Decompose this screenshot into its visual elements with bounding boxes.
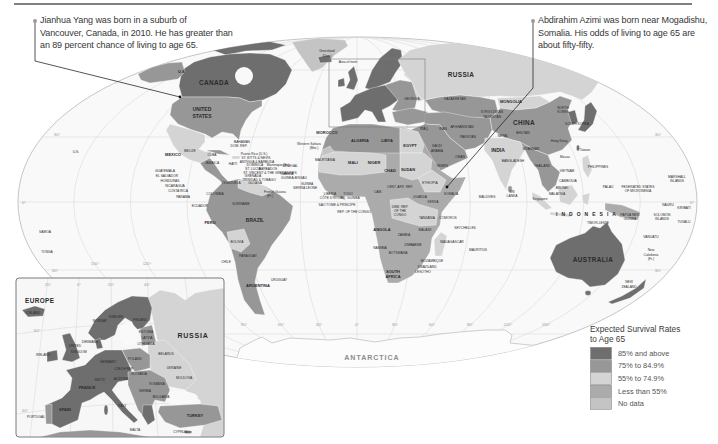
inset-label-poland: POLAND [128,357,142,361]
callout-2-line-1: Abdirahim Azimi was born near Mogadishu, [538,14,707,27]
label-vietnam: VIETNAM [560,169,575,173]
inset-title: EUROPE [25,297,55,304]
inset-label-turkey: TURKEY [187,413,204,418]
svg-text:90°: 90° [241,322,248,327]
inset-label-malta: MALTA [130,428,141,432]
label-namibia: NAMIBIA [373,246,387,250]
inset-label-united-kingdom: UNITED [69,344,82,348]
label-us-hawaii: U.S. [73,150,79,154]
callout-1-line-1: Jianhua Yang was born in a suburb of [40,14,233,27]
inset-label-ireland: IRELAND [36,353,51,357]
label-kiribati: KIRIBATI [677,206,691,210]
label-malawi: MALAWI [419,228,432,232]
label-oman: OMAN [455,155,466,159]
inset-label-italy: ITALY [118,404,127,408]
label-costa-rica: COSTA RICA [168,189,189,193]
inset-label-germany: GERMANY [100,360,117,364]
svg-text:30°: 30° [52,268,59,273]
label-chile: CHILE [221,260,232,264]
label-bhutan: BHUTAN [516,131,530,135]
callout-2-line-2: Somalia. His odds of living to age 65 ar… [538,27,707,40]
label-georgia: GEORGIA [404,97,420,101]
label-saudi-arabia: SAUDI [432,144,442,148]
label-australia: AUSTRALIA [573,256,614,263]
label-papua-new-guinea: GUINEA [624,217,637,221]
inset-portugal [45,404,52,424]
label-paraguay: PARAGUAY [239,254,258,258]
label-afghanistan: AFGHANISTAN [450,125,474,129]
legend-item: 55% to 74.9% [590,372,715,385]
callout-jianhua-yang: Jianhua Yang was born in a suburb of Van… [40,14,233,52]
label-russia: RUSSIA [448,71,475,78]
svg-text:60°: 60° [34,328,41,333]
label-sudan: SUDAN [401,167,415,172]
label-colombia: COLOMBIA [206,192,224,196]
label-iraq: IRAQ [420,127,428,131]
svg-text:30°: 30° [316,322,323,327]
legend-item: No data [590,397,715,410]
label-kyrgyzstan: KYRGYZSTAN [481,110,504,114]
label-samoa: SAMOA [39,230,52,234]
legend-item: 75% to 84.9% [590,360,715,373]
svg-text:0°: 0° [355,322,359,327]
label-el-salvador: EL SALVADOR [156,174,179,178]
label-tonga: TONGA [41,250,53,254]
label-greenland: (Den.) [322,54,331,58]
label-drc: CONGO [394,213,407,217]
label-canada: CANADA [199,79,229,86]
label-solomon-islands: ISLANDS [655,217,670,221]
svg-text:120°: 120° [504,322,513,327]
inset-label-czech-rep: CZECH REP. [114,367,134,371]
inset-label-united-kingdom: KINGDOM [71,350,87,354]
label-belize: BELIZE [184,149,196,153]
svg-text:0°: 0° [77,282,81,287]
inset-label-switzerland: SWITZ. [94,378,105,382]
callout-2-marker-icon [531,19,535,23]
callout-1-line-2: Vancouver, Canada, in 2010. He has great… [40,27,233,40]
europe-inset: 20° 0° 20° 40° 60° 40° EUROPE RUSSIA ICE… [16,278,224,437]
inset-label-bulgaria: BULGARIA [153,395,170,399]
label-marshall-islands: ISLANDS [670,179,685,183]
label-singapore: Singapore [532,197,547,201]
label-vanuatu: VANUATU [643,235,659,239]
label-mozambique: MOZAMBIQUE [421,259,444,263]
label-botswana: BOTSWANA [389,251,409,255]
legend: Expected Survival Rates to Age 65 85% an… [590,324,715,410]
label-algeria: ALGERIA [351,138,369,143]
label-niger: NIGER [368,160,381,165]
label-indonesia: INDONESIA [556,211,620,217]
label-western-sahara: (Mor.) [310,146,319,150]
legend-swatch [590,360,612,373]
label-palau: PALAU [603,185,614,189]
label-new-caledonia: New [648,248,655,252]
label-sao-tome: SAO TOME & PRINCIPE [319,203,357,207]
label-libya: LIBYA [381,138,393,143]
label-haiti: HAITI [229,162,238,166]
label-south-korea: SOUTH KOREA [565,122,590,126]
inset-label-spain: SPAIN [59,407,71,412]
label-mongolia: MONGOLIA [500,99,522,104]
label-mauritius: MAURITIUS [469,248,488,252]
inset-label-belarus: BELARUS [158,352,174,356]
legend-items: 85% and above 75% to 84.9% 55% to 74.9% … [590,347,715,410]
legend-swatch [590,347,612,360]
inset-label-denmark: DENMARK [82,340,99,344]
inset-label-norway: NORWAY [93,319,108,323]
label-brunei: BRUNEI [556,186,569,190]
label-antarctica: ANTARCTICA [344,354,399,361]
legend-title: Expected Survival Rates [590,324,715,334]
label-zambia: ZAMBIA [398,233,411,237]
label-jamaica: JAMAICA [205,161,220,165]
inset-label-finland: FINLAND [133,318,148,322]
label-pakistan: PAKISTAN [460,135,476,139]
inset-label-moldova: MOLDOVA [176,376,193,380]
label-timor-leste: TIMOR-LESTE [587,221,610,225]
label-eq-guinea: EQ. GUINEA [340,196,360,200]
svg-text:60°: 60° [429,322,436,327]
svg-text:20°: 20° [45,282,52,287]
inset-label-serbia: SERBIA [139,389,152,393]
label-senegal: SENEGAL [282,164,298,168]
label-suriname: SURINAME [232,202,250,206]
label-cambodia: CAMBODIA [559,179,577,183]
label-area-of-inset: Area of inset [339,60,358,64]
